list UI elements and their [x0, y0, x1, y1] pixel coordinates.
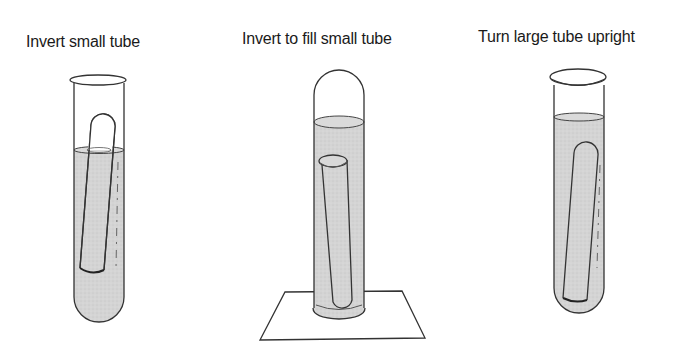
step-2-large-test-tube [313, 70, 365, 319]
step-1-large-test-tube [70, 75, 126, 322]
diagram-canvas [0, 0, 700, 354]
step-3-large-test-tube [550, 69, 606, 313]
